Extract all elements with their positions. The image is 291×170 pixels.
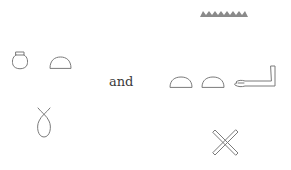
arm-icon: [233, 65, 280, 88]
water-ripple-icon: [200, 9, 248, 18]
pot-icon: [12, 51, 28, 70]
wick-loop-icon: [36, 107, 52, 139]
bread-loaf-icon: [49, 56, 72, 69]
bread-loaf-icon: [201, 76, 225, 88]
crossed-sticks-icon: [211, 128, 240, 157]
connector-word: and: [109, 75, 133, 88]
bread-loaf-icon: [169, 76, 193, 88]
